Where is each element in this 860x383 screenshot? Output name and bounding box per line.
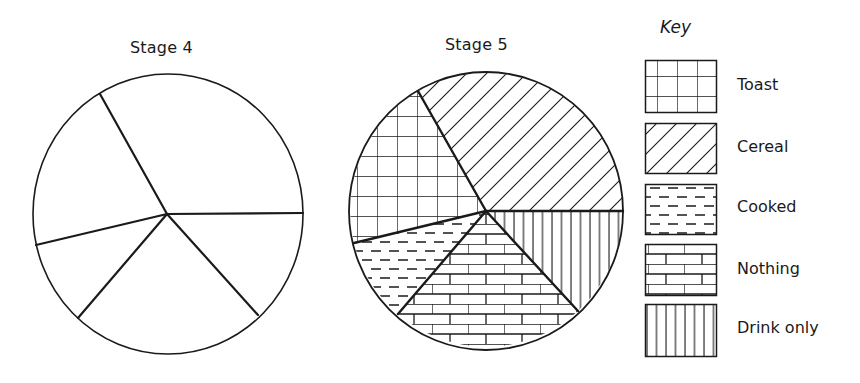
- stage4-pie: [33, 74, 303, 354]
- key-swatch-drink-only: [646, 305, 717, 357]
- key-label-drink-only: Drink only: [737, 318, 819, 337]
- key-label-nothing: Nothing: [737, 259, 800, 278]
- stage4-title: Stage 4: [130, 38, 193, 57]
- key-swatch-nothing: [646, 245, 717, 296]
- key-label-toast: Toast: [737, 75, 778, 94]
- pie-charts-canvas: [0, 0, 860, 383]
- key-swatch-cereal: [646, 124, 717, 174]
- key-swatch-cooked: [646, 185, 717, 235]
- stage5-title: Stage 5: [445, 35, 508, 54]
- key-label-cooked: Cooked: [737, 197, 796, 216]
- key-swatch-toast: [646, 61, 717, 113]
- stage5-pie: [349, 72, 623, 350]
- key-swatches: [646, 61, 717, 357]
- key-title: Key: [660, 17, 691, 37]
- key-label-cereal: Cereal: [737, 137, 788, 156]
